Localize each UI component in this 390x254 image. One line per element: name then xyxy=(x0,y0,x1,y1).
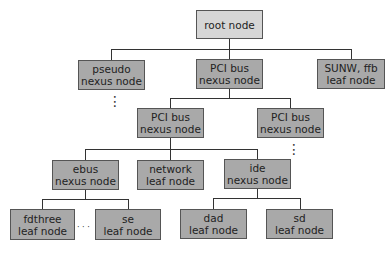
node-type: nexus node xyxy=(199,74,260,86)
node-label: PCI bus xyxy=(271,111,310,123)
ellipsis-pseudo: ⋮ xyxy=(108,94,122,108)
node-label: sd xyxy=(293,212,305,224)
node-network: network leaf node xyxy=(137,160,204,190)
node-pci-bus-2a: PCI bus nexus node xyxy=(137,108,204,138)
node-type: nexus node xyxy=(81,75,142,87)
edge-to-fdthree xyxy=(42,199,43,209)
edge-to-ide xyxy=(257,149,258,159)
node-type: leaf node xyxy=(103,225,152,237)
edge-to-pci1 xyxy=(229,49,230,59)
edge-to-pci2b xyxy=(290,98,291,108)
node-type: leaf node xyxy=(189,224,238,236)
edge-ide-bar xyxy=(213,198,300,199)
ellipsis-pci2b: ⋮ xyxy=(287,142,301,156)
edge-pci2a-bar xyxy=(85,149,257,150)
node-label: ebus xyxy=(73,163,98,175)
node-sunw-ffb: SUNW, ffb leaf node xyxy=(317,59,385,89)
edge-to-network xyxy=(170,149,171,160)
edge-to-pseudo xyxy=(111,49,112,60)
edge-to-sd xyxy=(300,198,301,209)
edge-ebus-bar xyxy=(42,199,128,200)
edge-to-se xyxy=(128,199,129,209)
node-pci-bus-2b: PCI bus nexus node xyxy=(257,108,324,138)
edge-to-pci2a xyxy=(170,98,171,108)
node-sd: sd leaf node xyxy=(266,209,333,239)
node-label: pseudo xyxy=(92,63,130,75)
node-label: dad xyxy=(204,212,224,224)
node-se: se leaf node xyxy=(95,209,161,240)
edge-to-dad xyxy=(213,198,214,209)
node-label: PCI bus xyxy=(151,111,190,123)
node-type: nexus node xyxy=(260,123,321,135)
node-type: leaf node xyxy=(275,224,324,236)
edge-to-sunw xyxy=(351,49,352,59)
ellipsis-leaves: · · · xyxy=(77,224,90,232)
node-fdthree: fdthree leaf node xyxy=(10,209,75,240)
node-type: leaf node xyxy=(146,175,195,187)
node-label: SUNW, ffb xyxy=(324,62,377,74)
edge-root-bar xyxy=(111,49,351,50)
node-pseudo: pseudo nexus node xyxy=(78,60,145,90)
node-type: nexus node xyxy=(140,123,201,135)
node-dad: dad leaf node xyxy=(180,209,247,239)
node-label: se xyxy=(122,213,134,225)
node-label: PCI bus xyxy=(210,62,249,74)
node-label: network xyxy=(149,163,192,175)
node-label: fdthree xyxy=(23,213,61,225)
node-type: leaf node xyxy=(326,74,375,86)
node-type: nexus node xyxy=(55,175,116,187)
node-ide: ide nexus node xyxy=(224,159,291,189)
node-root: root node xyxy=(196,10,263,39)
node-type: nexus node xyxy=(227,174,288,186)
node-type: leaf node xyxy=(18,225,67,237)
node-label: ide xyxy=(249,162,265,174)
node-ebus: ebus nexus node xyxy=(52,160,119,190)
node-label: root node xyxy=(204,19,255,31)
node-pci-bus-1: PCI bus nexus node xyxy=(196,59,263,89)
edge-pci1-bar xyxy=(170,98,290,99)
edge-to-ebus xyxy=(85,149,86,160)
